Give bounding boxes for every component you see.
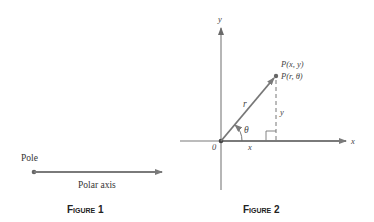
figure-1-caption: Figure 1 [67, 204, 104, 215]
polar-coordinates-diagram: Pole Polar axis Figure 1 y x 0 r P(x, y)… [0, 0, 374, 222]
x-leg-label: x [247, 142, 252, 152]
x-axis-label: x [350, 136, 355, 146]
point-cartesian-label: P(x, y) [280, 59, 304, 69]
figure-1: Pole Polar axis Figure 1 [21, 153, 162, 215]
angle-arc [235, 125, 242, 141]
polar-axis-label: Polar axis [78, 180, 116, 190]
y-leg-label: y [279, 107, 284, 117]
figure-2-caption: Figure 2 [243, 204, 280, 215]
right-angle-marker [266, 131, 276, 141]
radius-label: r [243, 99, 247, 109]
figure-2: y x 0 r P(x, y) P(r, θ) y θ x Figure 2 [180, 14, 355, 215]
point-p [274, 74, 278, 78]
origin-label: 0 [212, 142, 217, 152]
y-axis-label: y [217, 14, 222, 24]
angle-label: θ [244, 125, 249, 135]
pole-label: Pole [21, 153, 38, 163]
point-polar-label: P(r, θ) [280, 71, 303, 81]
